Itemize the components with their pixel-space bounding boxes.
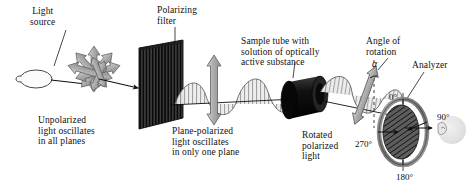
unpolarized-starburst xyxy=(66,46,121,93)
label-degree-0: 0° xyxy=(389,92,397,102)
light-source-bulb xyxy=(16,70,52,88)
sample-tube xyxy=(281,76,328,119)
label-alpha-symbol: α xyxy=(372,58,377,69)
label-plane-polarized-light: Plane-polarized light oscillates in only… xyxy=(172,126,239,158)
label-polarizing-filter: Polarizing filter xyxy=(157,5,197,26)
label-angle-of-rotation: Angle of rotation xyxy=(366,36,400,57)
label-rotated-polarized-light: Rotated polarized light xyxy=(302,130,338,162)
label-degree-270: 270° xyxy=(355,139,372,149)
label-unpolarized-light: Unpolarized light oscillates in all plan… xyxy=(38,115,95,147)
polarizing-filter xyxy=(139,40,183,129)
label-degree-90: 90° xyxy=(437,112,450,122)
label-degree-180: 180° xyxy=(396,172,413,182)
polarimeter-diagram: Light source Polarizing filter Sample tu… xyxy=(0,0,471,189)
beam-source-to-starburst xyxy=(51,80,86,84)
label-analyzer: Analyzer xyxy=(412,60,448,71)
diagram-canvas xyxy=(0,0,471,189)
analyzer-dial xyxy=(378,99,427,165)
rotation-angle-marker xyxy=(349,60,381,128)
leader-analyzer xyxy=(406,72,424,100)
label-sample-tube: Sample tube with solution of optically a… xyxy=(241,36,320,68)
leader-light-source xyxy=(54,30,66,66)
plane-polarized-wave xyxy=(170,79,296,115)
leader-angle xyxy=(378,58,388,70)
label-light-source: Light source xyxy=(30,6,55,27)
vertical-oscillation-arrow xyxy=(207,55,221,125)
